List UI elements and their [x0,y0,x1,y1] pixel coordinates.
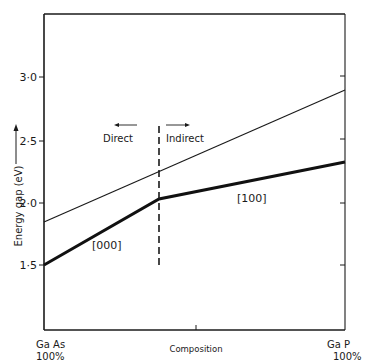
ytick-2.5: 2·5 [20,135,38,148]
series-000-label: [000] [92,239,122,252]
y-axis-label: Energy gap (eV) [13,165,24,246]
x-left-label: Ga As [36,339,65,350]
chart: 3·0 2·5 2·0 1·5 Energy gap (eV) Direct I… [0,0,369,362]
x-axis-label: Composition [169,344,222,354]
direct-arrow-icon [114,123,137,127]
series-000-line [44,162,345,265]
indirect-arrow-icon [166,123,190,127]
ytick-3.0: 3·0 [20,71,38,84]
x-left-pct: 100% [36,351,65,362]
ytick-1.5: 1·5 [20,259,38,272]
x-right-label: Ga P [327,339,350,350]
series-100-line [44,90,345,222]
x-right-pct: 100% [333,351,362,362]
indirect-label: Indirect [166,133,204,144]
y-ticks-right [340,76,345,265]
series-100-label: [100] [237,192,267,205]
y-axis-arrow-icon [14,124,19,164]
direct-label: Direct [103,133,133,144]
